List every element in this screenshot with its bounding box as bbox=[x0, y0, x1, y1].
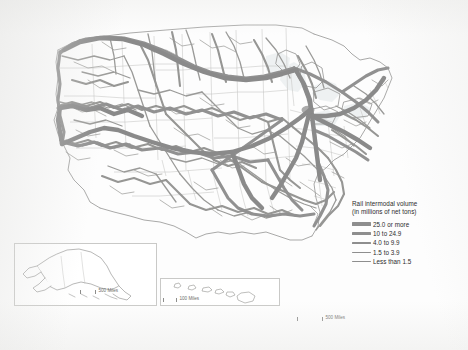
legend-title: Rail intermodal volume (in millions of n… bbox=[352, 200, 460, 216]
legend-item-10-to-24-9[interactable]: 10 to 24.9 bbox=[352, 229, 460, 238]
alaska-inset-panel bbox=[14, 243, 157, 306]
scale-bar-icon bbox=[80, 288, 96, 294]
legend-label: Less than 1.5 bbox=[372, 258, 411, 265]
scale-bar-icon bbox=[163, 296, 177, 302]
legend-swatch-wrap bbox=[352, 261, 372, 262]
legend-line-swatch-icon bbox=[352, 252, 371, 253]
hawaii-vector bbox=[161, 279, 281, 307]
legend-label: 10 to 24.9 bbox=[372, 230, 401, 237]
legend-swatch-wrap bbox=[352, 242, 372, 244]
legend-line-swatch-icon bbox=[352, 222, 371, 226]
legend-item-less-than-1-5[interactable]: Less than 1.5 bbox=[352, 257, 460, 266]
legend-title-line-2: (in millions of net tons) bbox=[352, 208, 460, 216]
scale-bar-hawaii: 100 Miles bbox=[163, 296, 199, 302]
alaska-vector bbox=[15, 244, 158, 307]
scale-bar-label: 500 Miles bbox=[99, 288, 119, 294]
legend-label: 25.0 or more bbox=[372, 221, 409, 228]
legend-line-swatch-icon bbox=[352, 232, 371, 235]
state-boundaries bbox=[60, 28, 388, 216]
legend-title-line-1: Rail intermodal volume bbox=[352, 200, 460, 208]
scale-bar-alaska: 500 Miles bbox=[80, 288, 118, 294]
legend-item-1-5-to-3-9[interactable]: 1.5 to 3.9 bbox=[352, 248, 460, 257]
scale-bar-main: 500 Miles bbox=[297, 315, 345, 321]
legend-item-4-to-9-9[interactable]: 4.0 to 9.9 bbox=[352, 238, 460, 247]
legend-label: 1.5 to 3.9 bbox=[372, 249, 400, 256]
scale-bar-label: 500 Miles bbox=[326, 315, 346, 321]
legend-swatch-wrap bbox=[352, 232, 372, 235]
scale-bar-icon bbox=[297, 315, 323, 321]
rail-intermodal-volume-map-figure: Rail intermodal volume (in millions of n… bbox=[0, 0, 468, 350]
legend-line-swatch-icon bbox=[352, 261, 371, 262]
chicago-hub-node bbox=[302, 106, 315, 114]
legend-swatch-wrap bbox=[352, 222, 372, 226]
legend-swatch-wrap bbox=[352, 252, 372, 253]
map-legend: Rail intermodal volume (in millions of n… bbox=[352, 200, 460, 266]
legend-label: 4.0 to 9.9 bbox=[372, 239, 400, 246]
scale-bar-label: 100 Miles bbox=[180, 296, 200, 302]
legend-item-25-or-more[interactable]: 25.0 or more bbox=[352, 219, 460, 228]
legend-line-swatch-icon bbox=[352, 242, 371, 244]
